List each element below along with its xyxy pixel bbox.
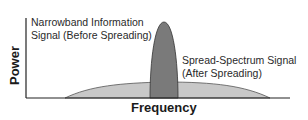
narrowband-signal-label: Narrowband Information Signal (Before Sp… (31, 16, 152, 41)
x-axis-label: Frequency (131, 100, 197, 115)
spread-spectrum-label-line2: (After Spreading) (182, 67, 296, 80)
spread-spectrum-signal-label: Spread-Spectrum Signal (After Spreading) (182, 54, 296, 79)
narrowband-label-line2: Signal (Before Spreading) (31, 29, 152, 42)
narrowband-signal-shape (150, 22, 178, 98)
y-axis-label: Power (7, 46, 22, 86)
narrowband-label-line1: Narrowband Information (31, 16, 152, 29)
spread-spectrum-label-line1: Spread-Spectrum Signal (182, 54, 296, 67)
